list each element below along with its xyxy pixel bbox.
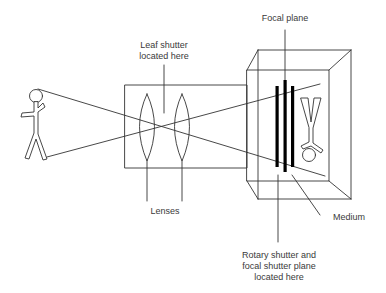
focal-plane-text: Focal plane bbox=[252, 13, 318, 24]
subject-head bbox=[30, 90, 43, 103]
label-rotary-shutter: Rotary shutter and focal shutter plane l… bbox=[236, 250, 322, 283]
bar-middle bbox=[284, 80, 287, 172]
label-leaf-shutter: Leaf shutter located here bbox=[122, 40, 206, 62]
label-medium: Medium bbox=[325, 212, 373, 223]
bar-right bbox=[291, 86, 294, 167]
lens-2 bbox=[175, 94, 190, 161]
rotary-shutter-line2: focal shutter plane bbox=[236, 261, 322, 272]
inverted-image bbox=[301, 98, 323, 162]
ray-head-to-bottom bbox=[38, 89, 325, 176]
lens-1 bbox=[140, 94, 155, 161]
medium-text: Medium bbox=[325, 212, 373, 223]
label-lenses: Lenses bbox=[140, 206, 190, 217]
ray-feet-to-top bbox=[47, 84, 320, 157]
rotary-shutter-line1: Rotary shutter and bbox=[236, 250, 322, 261]
bar-left bbox=[276, 86, 279, 167]
light-rays bbox=[38, 84, 325, 176]
subject-body-outline bbox=[21, 102, 47, 160]
lenses-text: Lenses bbox=[140, 206, 190, 217]
camera-body bbox=[247, 50, 351, 199]
rotary-shutter-line3: located here bbox=[236, 272, 322, 283]
subject-figure bbox=[21, 90, 47, 161]
leaf-shutter-line2: located here bbox=[122, 51, 206, 62]
label-focal-plane: Focal plane bbox=[252, 13, 318, 24]
leaf-shutter-line1: Leaf shutter bbox=[122, 40, 206, 51]
lens-tube bbox=[125, 85, 247, 168]
focal-plane-bars bbox=[276, 80, 295, 172]
